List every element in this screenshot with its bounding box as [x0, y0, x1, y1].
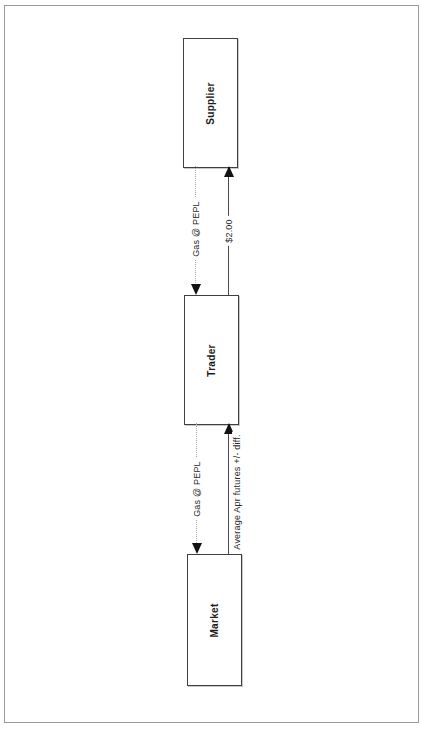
node-supplier: Supplier: [183, 38, 238, 168]
node-market-label: Market: [209, 603, 220, 637]
scanned-diagram-page: Supplier Trader Market Gas @ PEPL $2.00 …: [0, 0, 422, 730]
edge-market-to-trader-line: [228, 433, 229, 554]
node-trader-label: Trader: [206, 344, 217, 376]
edge-trader-to-supplier-label: $2.00: [224, 216, 234, 246]
edge-market-to-trader-label: Average Apr futures +/- diff.: [232, 431, 242, 552]
edge-supplier-to-trader-label: Gas @ PEPL: [191, 198, 201, 260]
arrow-down-icon: [192, 543, 202, 554]
arrow-up-icon: [224, 166, 234, 177]
node-supplier-label: Supplier: [205, 82, 216, 124]
node-market: Market: [187, 554, 242, 686]
arrow-down-icon: [191, 284, 201, 295]
node-trader: Trader: [184, 295, 239, 425]
edge-trader-to-market-label: Gas @ PEPL: [192, 458, 202, 520]
